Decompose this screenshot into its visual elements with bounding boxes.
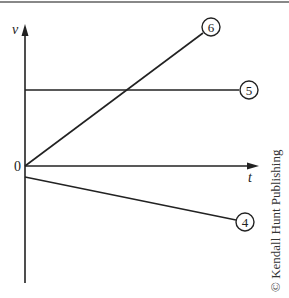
t-axis-arrow-icon [247, 163, 259, 170]
v-axis [22, 24, 29, 283]
velocity-time-diagram: v t 0 6 5 4 © Kendall Hunt Publishing [0, 0, 289, 298]
t-axis [25, 163, 259, 170]
line-6: 6 [25, 18, 220, 166]
v-axis-label: v [12, 22, 19, 37]
v-axis-arrow-icon [22, 24, 29, 36]
origin-label: 0 [14, 159, 21, 174]
line-4: 4 [25, 177, 254, 231]
line-5: 5 [25, 81, 258, 99]
copyright-credit: © Kendall Hunt Publishing [268, 150, 284, 292]
line-5-label: 5 [246, 83, 253, 98]
line-6-label: 6 [208, 20, 215, 35]
line-4-label: 4 [242, 215, 249, 230]
t-axis-label: t [248, 170, 253, 185]
